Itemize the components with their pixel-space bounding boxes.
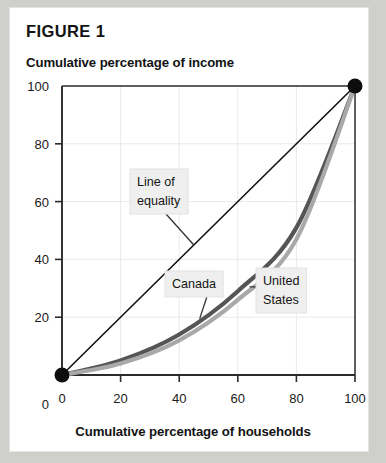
callout-canada-line1: Canada <box>172 277 216 291</box>
y-tick-label-100: 100 <box>27 79 49 94</box>
y-tick-label-80: 80 <box>35 137 49 152</box>
endpoint-marker <box>55 368 70 383</box>
endpoint-marker <box>348 79 363 94</box>
axis-tick-labels: 020406080100204060801000 <box>27 79 366 412</box>
lorenz-curve-chart: 020406080100204060801000 Line of equalit… <box>0 0 386 463</box>
callout-equality-line1: Line of <box>137 175 175 189</box>
x-axis-title: Cumulative percentage of households <box>0 424 386 439</box>
callout-us-line2: States <box>263 293 299 307</box>
callout-line-of-equality: Line of equality <box>130 169 188 214</box>
callout-canada: Canada <box>165 271 223 297</box>
data-series <box>62 86 355 375</box>
callout-equality-line2: equality <box>137 194 181 208</box>
y-tick-label-0: 0 <box>42 397 49 412</box>
leader-line-equality <box>166 214 194 245</box>
x-tick-label-40: 40 <box>172 391 186 406</box>
figure-container: FIGURE 1 Cumulative percentage of income… <box>0 0 386 463</box>
y-tick-label-40: 40 <box>35 252 49 267</box>
axis-ticks <box>55 144 355 382</box>
x-tick-label-20: 20 <box>113 391 127 406</box>
y-tick-label-60: 60 <box>35 195 49 210</box>
x-tick-label-60: 60 <box>231 391 245 406</box>
callout-united-states: United States <box>256 268 306 313</box>
y-tick-label-20: 20 <box>35 310 49 325</box>
x-tick-label-0: 0 <box>58 391 65 406</box>
x-tick-label-100: 100 <box>344 391 366 406</box>
series-line-of-equality <box>62 86 355 375</box>
x-tick-label-80: 80 <box>289 391 303 406</box>
callout-us-line1: United <box>263 274 299 288</box>
